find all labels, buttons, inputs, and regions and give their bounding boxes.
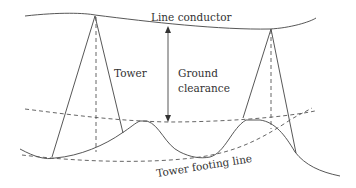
line-conductor-label: Line conductor [151,11,233,23]
ground-clearance-label-line1: Ground [178,67,218,79]
left-tower [52,16,123,157]
tower-label: Tower [114,67,148,79]
transmission-line-diagram: Line conductor Tower Ground clearance To… [0,0,356,188]
right-tower [243,29,296,153]
ground-clearance-label-line2: clearance [178,82,230,94]
ground-clearance-arrow [165,26,171,122]
